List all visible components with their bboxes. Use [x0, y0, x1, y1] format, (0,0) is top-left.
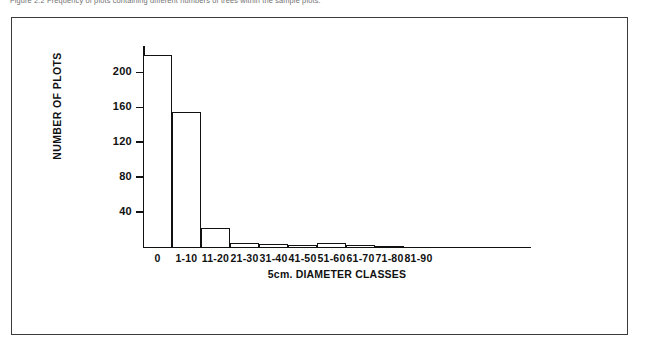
- x-axis-title: 5cm. DIAMETER CLASSES: [143, 268, 531, 280]
- y-axis-title: NUMBER OF PLOTS: [51, 26, 63, 186]
- y-axis-tick-label: 160: [90, 100, 132, 112]
- y-axis-tick-label: 200: [90, 65, 132, 77]
- y-axis-tick-label: 80: [90, 170, 132, 182]
- bar: [201, 228, 230, 247]
- bar: [230, 243, 259, 247]
- bar: [259, 244, 288, 247]
- y-axis-tick: [136, 72, 143, 73]
- histogram-chart: NUMBER OF PLOTS 4080120160200 01-1011-20…: [0, 0, 650, 347]
- bar: [346, 245, 375, 247]
- bar: [288, 245, 317, 247]
- bar: [143, 55, 172, 247]
- y-axis-tick-label: 40: [90, 205, 132, 217]
- y-axis-tick-label: 120: [90, 135, 132, 147]
- bar: [172, 112, 201, 247]
- x-axis-tick-label: 81-90: [394, 252, 444, 264]
- y-axis-tick-labels: 4080120160200: [88, 0, 132, 347]
- y-axis-tick: [136, 176, 143, 177]
- bar: [317, 243, 346, 247]
- x-axis-tick-labels: 01-1011-2021-3031-4041-5051-6061-7071-80…: [143, 252, 543, 268]
- y-axis-tick: [136, 211, 143, 212]
- bar-series: [143, 46, 531, 247]
- bar: [375, 246, 404, 247]
- y-axis-tick: [136, 107, 143, 108]
- y-axis-tick: [136, 141, 143, 142]
